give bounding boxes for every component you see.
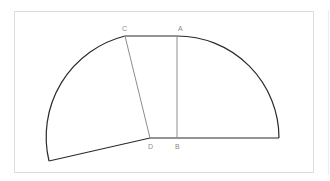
label-a: A [178, 25, 183, 32]
label-d: D [148, 143, 153, 150]
geometry-diagram: C A D B [0, 0, 330, 181]
label-b: B [175, 143, 180, 150]
label-c: C [122, 25, 127, 32]
quarter-arc-right [177, 36, 279, 138]
quarter-arc-left [46, 36, 125, 161]
segment-cd [125, 36, 150, 138]
segment-d-to-left-end [49, 138, 150, 161]
